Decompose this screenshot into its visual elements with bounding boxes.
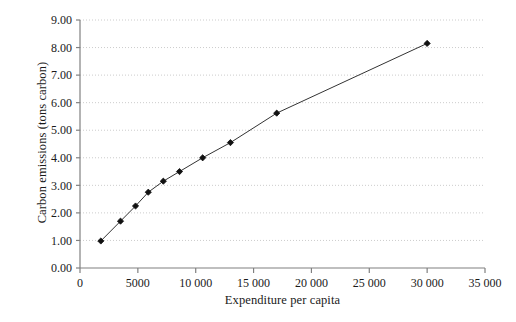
y-tick-label: 6.00 xyxy=(51,96,72,110)
data-point-markers xyxy=(98,40,431,244)
x-tick-label: 0 xyxy=(77,276,83,290)
x-tick-labels: 0500010 00015 00020 00025 00030 00035 00… xyxy=(77,276,502,290)
x-tick-label: 25 000 xyxy=(353,276,386,290)
y-tick-label: 7.00 xyxy=(51,68,72,82)
chart-figure: Carbon emissions (tons carbon) Expenditu… xyxy=(0,0,516,322)
y-tick-label: 0.00 xyxy=(51,261,72,275)
data-point-marker xyxy=(274,110,280,116)
y-tick-label: 4.00 xyxy=(51,151,72,165)
data-line-series xyxy=(101,43,427,241)
x-tick-label: 20 000 xyxy=(295,276,328,290)
y-tick-labels: 0.001.002.003.004.005.006.007.008.009.00 xyxy=(51,13,72,275)
data-point-marker xyxy=(176,168,182,174)
y-tick-label: 5.00 xyxy=(51,123,72,137)
data-point-marker xyxy=(200,155,206,161)
y-tick-label: 2.00 xyxy=(51,206,72,220)
data-point-marker xyxy=(227,140,233,146)
data-point-marker xyxy=(424,40,430,46)
x-tick-label: 15 000 xyxy=(237,276,270,290)
axes xyxy=(76,20,485,273)
x-tick-label: 10 000 xyxy=(179,276,212,290)
y-tick-label: 8.00 xyxy=(51,41,72,55)
series-line xyxy=(101,43,427,241)
x-tick-label: 30 000 xyxy=(411,276,444,290)
gridlines xyxy=(80,20,485,240)
plot-area: 0.001.002.003.004.005.006.007.008.009.00… xyxy=(0,0,516,322)
x-tick-label: 5000 xyxy=(126,276,150,290)
y-tick-label: 9.00 xyxy=(51,13,72,27)
x-tick-label: 35 000 xyxy=(469,276,502,290)
y-tick-label: 1.00 xyxy=(51,234,72,248)
y-tick-label: 3.00 xyxy=(51,179,72,193)
